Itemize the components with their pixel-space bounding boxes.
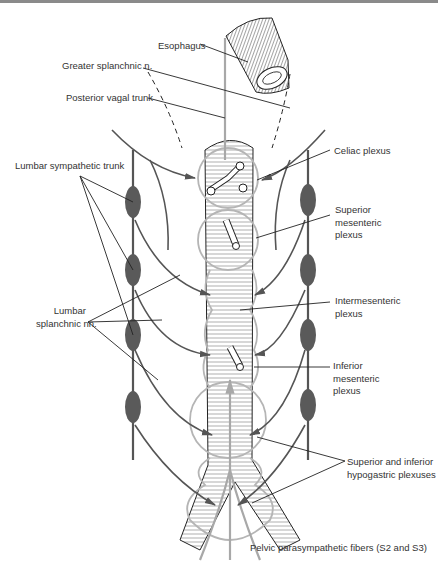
- label-intermesenteric-plexus: Intermesenteric plexus: [335, 295, 400, 320]
- label-hypogastric-plexuses: Superior and inferior hypogastric plexus…: [347, 456, 436, 481]
- label-lumbar-sympathetic-trunk: Lumbar sympathetic trunk: [15, 160, 124, 173]
- label-esophagus: Esophagus: [158, 40, 206, 53]
- label-inferior-mesenteric-plexus: Inferior mesenteric plexus: [333, 360, 379, 398]
- label-pelvic-parasympathetic: Pelvic parasympathetic fibers (S2 and S3…: [250, 542, 427, 555]
- label-celiac-plexus: Celiac plexus: [334, 145, 391, 158]
- greater-splanchnic-left: [148, 72, 182, 148]
- autonomic-plexus-diagram: [0, 0, 438, 571]
- label-posterior-vagal-trunk: Posterior vagal trunk: [66, 92, 153, 105]
- label-greater-splanchnic: Greater splanchnic n.: [62, 60, 152, 73]
- label-superior-mesenteric-plexus: Superior mesenteric plexus: [335, 204, 381, 242]
- esophagus: [226, 18, 291, 94]
- label-lumbar-splanchnic: Lumbar splanchnic nn.: [36, 305, 86, 330]
- aorta: [180, 140, 300, 550]
